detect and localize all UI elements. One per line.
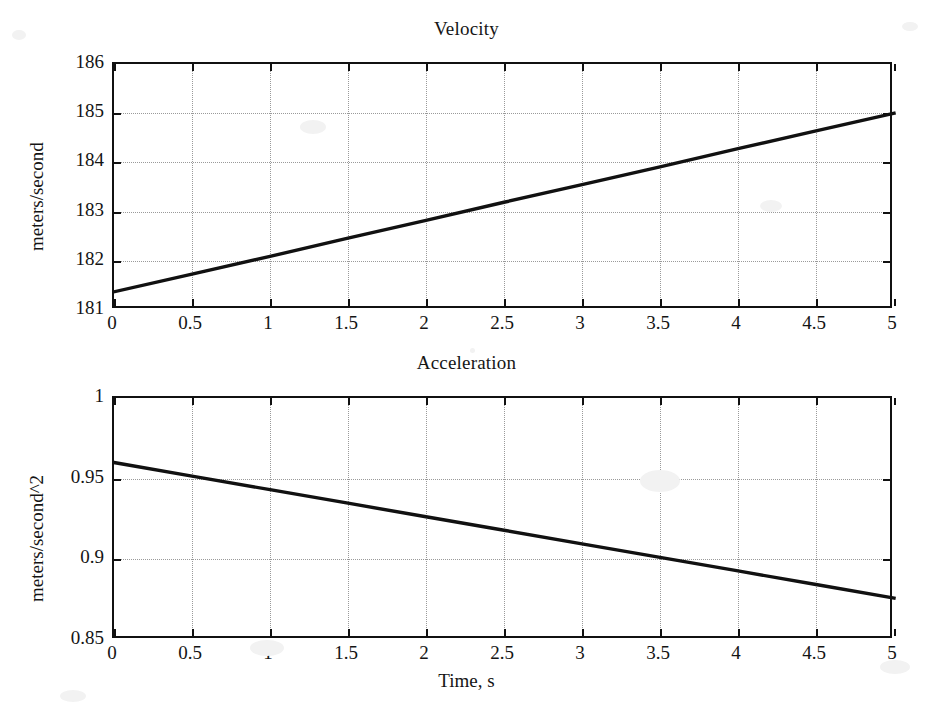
acceleration-vertical-gridline — [270, 398, 271, 636]
velocity-x-tick — [504, 64, 506, 71]
acceleration-vertical-gridline — [738, 398, 739, 636]
velocity-x-tick — [582, 64, 584, 71]
acceleration-y-axis-label: meters/second^2 — [26, 475, 48, 602]
acceleration-x-tick-label: 2 — [419, 642, 429, 664]
acceleration-x-tick — [426, 629, 428, 636]
velocity-horizontal-gridline — [114, 261, 890, 262]
velocity-x-tick-label: 0.5 — [178, 312, 202, 334]
velocity-x-tick — [348, 64, 350, 71]
velocity-x-tick — [504, 299, 506, 306]
velocity-x-tick — [270, 299, 272, 306]
velocity-vertical-gridline — [738, 64, 739, 306]
velocity-x-tick — [738, 299, 740, 306]
velocity-plot-panel: Velocity meters/second 00.511.522.533.54… — [0, 18, 933, 318]
velocity-vertical-gridline — [582, 64, 583, 306]
acceleration-x-tick-label: 0.5 — [178, 642, 202, 664]
velocity-x-tick-label: 5 — [887, 312, 897, 334]
velocity-x-tick — [660, 64, 662, 71]
acceleration-y-tick — [883, 479, 890, 481]
acceleration-y-tick-label: 0.85 — [46, 627, 104, 649]
acceleration-vertical-gridline — [504, 398, 505, 636]
acceleration-x-tick — [738, 629, 740, 636]
acceleration-vertical-gridline — [348, 398, 349, 636]
figure-canvas: Velocity meters/second 00.511.522.533.54… — [0, 0, 933, 727]
acceleration-x-tick — [270, 629, 272, 636]
velocity-x-tick — [114, 64, 116, 71]
velocity-y-tick-label: 186 — [46, 51, 104, 73]
velocity-x-tick-label: 4 — [731, 312, 741, 334]
acceleration-horizontal-gridline — [114, 559, 890, 560]
acceleration-x-tick — [660, 398, 662, 405]
velocity-x-tick-label: 1 — [263, 312, 273, 334]
acceleration-x-tick — [894, 629, 896, 636]
velocity-plot-title: Velocity — [0, 18, 933, 40]
acceleration-x-tick — [192, 629, 194, 636]
velocity-x-tick-label: 3.5 — [646, 312, 670, 334]
acceleration-x-tick — [114, 629, 116, 636]
velocity-y-tick — [114, 261, 121, 263]
acceleration-x-tick — [426, 398, 428, 405]
velocity-y-tick — [114, 212, 121, 214]
velocity-x-tick — [270, 64, 272, 71]
acceleration-x-tick — [894, 398, 896, 405]
velocity-y-tick-label: 182 — [46, 248, 104, 270]
velocity-horizontal-gridline — [114, 162, 890, 163]
acceleration-vertical-gridline — [192, 398, 193, 636]
acceleration-x-tick — [348, 398, 350, 405]
velocity-x-tick — [816, 64, 818, 71]
acceleration-x-tick — [270, 398, 272, 405]
velocity-x-tick — [738, 64, 740, 71]
acceleration-x-tick — [816, 629, 818, 636]
velocity-x-tick — [426, 64, 428, 71]
acceleration-x-tick-label: 4 — [731, 642, 741, 664]
velocity-y-tick — [883, 113, 890, 115]
acceleration-y-tick-label: 0.95 — [46, 466, 104, 488]
time-x-axis-label: Time, s — [0, 670, 933, 692]
acceleration-vertical-gridline — [660, 398, 661, 636]
velocity-horizontal-gridline — [114, 212, 890, 213]
acceleration-x-tick — [348, 629, 350, 636]
velocity-y-tick — [883, 212, 890, 214]
acceleration-x-tick — [738, 398, 740, 405]
velocity-y-axis-label: meters/second — [26, 142, 48, 251]
acceleration-vertical-gridline — [582, 398, 583, 636]
velocity-y-tick — [114, 162, 121, 164]
acceleration-x-tick — [582, 398, 584, 405]
velocity-y-tick-label: 181 — [46, 297, 104, 319]
velocity-y-tick — [883, 261, 890, 263]
velocity-vertical-gridline — [660, 64, 661, 306]
velocity-vertical-gridline — [192, 64, 193, 306]
acceleration-x-tick — [816, 398, 818, 405]
acceleration-x-tick-label: 0 — [107, 642, 117, 664]
velocity-vertical-gridline — [270, 64, 271, 306]
acceleration-x-tick — [504, 629, 506, 636]
velocity-y-tick-label: 185 — [46, 100, 104, 122]
acceleration-x-tick-label: 3 — [575, 642, 585, 664]
acceleration-plot-panel: Acceleration meters/second^2 Time, s 00.… — [0, 352, 933, 692]
acceleration-x-tick — [660, 629, 662, 636]
velocity-x-tick — [582, 299, 584, 306]
velocity-x-tick-label: 1.5 — [334, 312, 358, 334]
acceleration-x-tick — [192, 398, 194, 405]
acceleration-plot-title: Acceleration — [0, 352, 933, 374]
velocity-y-tick-label: 184 — [46, 149, 104, 171]
velocity-x-tick — [894, 64, 896, 71]
acceleration-x-tick-label: 5 — [887, 642, 897, 664]
velocity-vertical-gridline — [504, 64, 505, 306]
velocity-vertical-gridline — [426, 64, 427, 306]
velocity-x-tick — [114, 299, 116, 306]
acceleration-y-tick-label: 0.9 — [46, 546, 104, 568]
acceleration-y-tick — [883, 559, 890, 561]
velocity-x-tick-label: 2 — [419, 312, 429, 334]
velocity-y-tick — [883, 162, 890, 164]
velocity-x-tick — [816, 299, 818, 306]
velocity-x-tick — [426, 299, 428, 306]
acceleration-x-tick-label: 1 — [263, 642, 273, 664]
acceleration-x-tick-label: 4.5 — [802, 642, 826, 664]
velocity-x-tick-label: 2.5 — [490, 312, 514, 334]
acceleration-x-tick — [504, 398, 506, 405]
velocity-x-tick — [192, 64, 194, 71]
acceleration-axes — [112, 396, 892, 638]
velocity-y-tick — [114, 113, 121, 115]
acceleration-vertical-gridline — [426, 398, 427, 636]
